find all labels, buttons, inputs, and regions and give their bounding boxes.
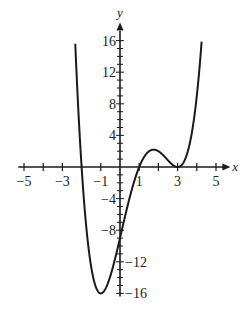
y-tick-label: −4	[101, 192, 116, 207]
x-axis-arrow-icon	[222, 164, 230, 171]
y-axis-arrow-icon	[117, 22, 124, 30]
chart-canvas: −5−3−1135161284−4−8−12−16 x y	[0, 0, 247, 313]
x-tick-label: 3	[174, 174, 181, 189]
y-tick-label: −16	[125, 286, 147, 301]
y-tick-label: 4	[109, 128, 116, 143]
x-tick-label: −3	[55, 174, 70, 189]
y-tick-label: −8	[101, 223, 116, 238]
y-tick-label: −12	[125, 255, 147, 270]
y-tick-label: 8	[109, 97, 116, 112]
y-axis-label: y	[115, 5, 123, 20]
y-tick-label: 12	[102, 65, 116, 80]
x-tick-label: −5	[17, 174, 32, 189]
x-tick-label: 5	[213, 174, 220, 189]
x-axis-label: x	[231, 159, 238, 174]
y-tick-label: 16	[102, 34, 116, 49]
x-tick-label: −1	[93, 174, 108, 189]
